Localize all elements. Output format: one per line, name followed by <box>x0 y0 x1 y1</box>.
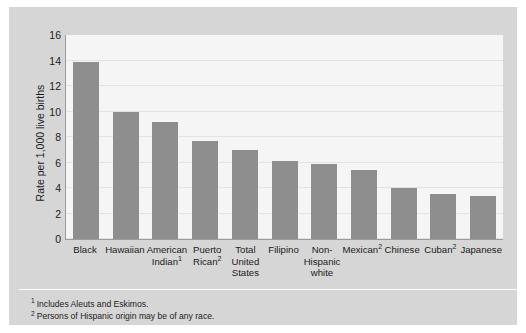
footnote-text: Includes Aleuts and Eskimos. <box>37 299 149 309</box>
bar[interactable] <box>232 150 258 239</box>
x-axis-tick-label: American Indian1 <box>146 244 189 267</box>
bar[interactable] <box>351 170 377 239</box>
x-axis-tick-label: Cuban2 <box>421 244 459 256</box>
x-axis-tick-label: Non-Hispanic white <box>303 244 342 279</box>
bar-slot <box>265 35 305 239</box>
y-axis-tick-label: 2 <box>55 208 61 219</box>
y-axis-tick-label: 8 <box>55 132 61 143</box>
y-axis-tick-label: 14 <box>49 55 61 66</box>
bar-slot <box>463 35 503 239</box>
bar-slot <box>424 35 464 239</box>
bar-slot <box>66 35 106 239</box>
bar[interactable] <box>192 141 218 239</box>
bar-slot <box>106 35 146 239</box>
bar-slot <box>225 35 265 239</box>
footnote-list: 1Includes Aleuts and Eskimos.2Persons of… <box>31 298 501 323</box>
y-axis-tick-label: 10 <box>49 106 61 117</box>
footnote: 1Includes Aleuts and Eskimos. <box>31 298 501 310</box>
bar[interactable] <box>430 194 456 239</box>
footnote: 2Persons of Hispanic origin may be of an… <box>31 310 501 322</box>
y-axis-tick-label: 4 <box>55 183 61 194</box>
figure-root: Rate per 1,000 live births 0246810121416… <box>0 0 526 333</box>
footnote-marker: 2 <box>31 310 35 317</box>
x-axis-tick-label: Mexican2 <box>341 244 383 256</box>
y-axis-tick-label: 0 <box>55 234 61 245</box>
y-axis-tick-label: 6 <box>55 157 61 168</box>
bar-slot <box>344 35 384 239</box>
x-axis-tick-labels: BlackHawaiianAmerican Indian1Puerto Rica… <box>66 244 503 279</box>
x-axis-tick-label: Puerto Rican2 <box>188 244 226 267</box>
footnote-divider <box>19 289 525 290</box>
x-axis-line <box>66 239 503 240</box>
bar-slot <box>185 35 225 239</box>
bar[interactable] <box>272 161 298 239</box>
bar[interactable] <box>311 164 337 239</box>
footnote-marker: 1 <box>178 255 182 262</box>
bar-slot <box>145 35 185 239</box>
bar[interactable] <box>391 188 417 239</box>
bar[interactable] <box>73 62 99 239</box>
footnote-marker: 2 <box>218 255 222 262</box>
x-axis-tick-label: Total United States <box>226 244 264 279</box>
y-axis-tick-label: 12 <box>49 81 61 92</box>
x-axis-tick-label: Filipino <box>264 244 302 256</box>
y-axis-tick-label: 16 <box>49 30 61 41</box>
bar-slot <box>384 35 424 239</box>
y-axis-tick-labels: 0246810121416 <box>41 35 61 239</box>
x-axis-tick-label: Japanese <box>459 244 503 256</box>
x-axis-tick-label: Black <box>66 244 104 256</box>
bar[interactable] <box>113 112 139 240</box>
bar-series <box>66 35 503 239</box>
footnote-marker: 2 <box>378 243 382 250</box>
bar[interactable] <box>152 122 178 239</box>
footnote-marker: 1 <box>31 297 35 304</box>
chart-panel: Rate per 1,000 live births 0246810121416… <box>9 7 517 325</box>
bar[interactable] <box>470 196 496 239</box>
footnote-text: Persons of Hispanic origin may be of any… <box>37 311 215 321</box>
footnote-marker: 2 <box>452 243 456 250</box>
x-axis-tick-label: Chinese <box>383 244 421 256</box>
x-axis-tick-label: Hawaiian <box>104 244 145 256</box>
bar-slot <box>304 35 344 239</box>
